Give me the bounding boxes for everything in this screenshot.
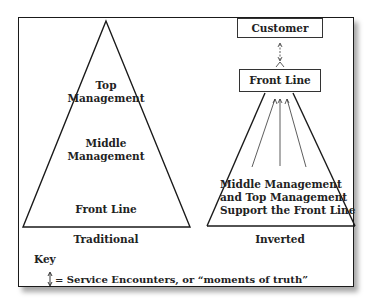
traditional-top-label: Top Management (66, 79, 146, 105)
traditional-pyramid (23, 21, 190, 227)
customer-box: Customer (237, 18, 323, 38)
diagram-lines (0, 0, 374, 305)
key-description: = Service Encounters, or “moments of tru… (55, 273, 308, 286)
front-line-label: Front Line (249, 74, 311, 86)
key-title: Key (34, 253, 56, 266)
customer-label: Customer (251, 22, 308, 34)
key-arrow-icon (48, 272, 52, 286)
traditional-bottom-label: Front Line (66, 203, 146, 216)
support-arrows (252, 99, 306, 167)
front-line-box: Front Line (239, 69, 321, 92)
traditional-caption: Traditional (66, 233, 146, 246)
service-encounter-arrow (276, 43, 284, 67)
traditional-middle-label: Middle Management (66, 137, 146, 163)
inverted-support-label: Middle Management and Top Management Sup… (220, 178, 340, 217)
inverted-caption: Inverted (240, 233, 320, 246)
